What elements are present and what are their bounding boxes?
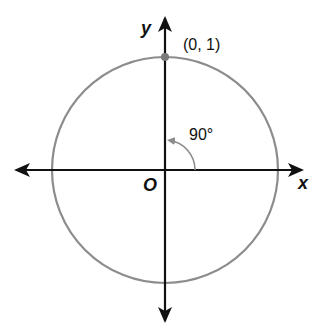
angle-label: 90° (189, 126, 213, 144)
point-label: (0, 1) (183, 36, 220, 54)
unit-circle-diagram (0, 0, 324, 331)
y-axis-label: y (141, 18, 151, 39)
origin-label: O (143, 175, 157, 196)
point-0-1 (161, 53, 169, 61)
x-axis-label: x (298, 173, 308, 194)
angle-arc (169, 140, 195, 170)
